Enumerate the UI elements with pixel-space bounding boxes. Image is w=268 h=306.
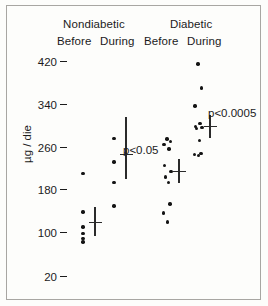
data-point — [197, 154, 200, 157]
y-tick-20-label: 20 — [44, 271, 57, 283]
mean-marker — [173, 171, 186, 172]
y-tick-180-mark — [60, 189, 67, 190]
data-point — [198, 122, 201, 125]
data-point — [200, 86, 203, 89]
y-tick-340-label: 340 — [38, 99, 57, 111]
annotation-p-0-0005: p<0.0005 — [208, 107, 256, 119]
data-point — [81, 232, 84, 235]
y-tick-20: 20 — [7, 271, 67, 283]
data-point — [81, 225, 84, 228]
column-label-nondiabetic-during: During — [100, 35, 134, 47]
data-point — [166, 220, 169, 223]
data-point — [167, 147, 170, 150]
y-tick-340-mark — [60, 104, 67, 105]
data-point — [81, 210, 84, 213]
y-tick-340: 340 — [7, 99, 67, 111]
data-point — [162, 211, 165, 214]
column-label-diabetic-during: During — [187, 35, 221, 47]
y-tick-100-mark — [60, 232, 67, 233]
y-tick-260: 260 — [7, 142, 67, 154]
data-point — [168, 202, 171, 205]
data-point — [196, 62, 199, 65]
data-point — [169, 140, 172, 143]
y-tick-420-label: 420 — [38, 56, 57, 68]
annotation-p-0-05: p<0.05 — [123, 144, 159, 156]
group-title-nondiabetic: Nondiabetic — [63, 18, 125, 30]
y-tick-180: 180 — [7, 184, 67, 196]
y-tick-20-mark — [60, 276, 67, 277]
mean-marker — [204, 126, 217, 127]
y-tick-420: 420 — [7, 56, 67, 68]
data-point — [81, 172, 84, 175]
data-point — [112, 160, 115, 163]
data-point — [198, 139, 201, 142]
column-label-nondiabetic-before: Before — [57, 35, 91, 47]
data-point — [112, 181, 115, 184]
mean-marker — [89, 222, 102, 223]
data-point — [112, 137, 115, 140]
y-tick-100-label: 100 — [38, 227, 57, 239]
data-point — [167, 181, 170, 184]
data-point — [193, 104, 196, 107]
data-point — [112, 204, 115, 207]
y-tick-260-mark — [60, 147, 67, 148]
data-point — [163, 164, 166, 167]
y-tick-420-mark — [60, 61, 67, 62]
y-tick-180-label: 180 — [38, 184, 57, 196]
data-point — [164, 175, 167, 178]
group-title-diabetic: Diabetic — [170, 18, 212, 30]
plot-area: Nondiabetic Diabetic Before During Befor… — [7, 6, 260, 299]
data-point — [193, 153, 196, 156]
data-point — [81, 240, 84, 243]
figure-border: Nondiabetic Diabetic Before During Befor… — [6, 5, 261, 300]
data-point — [195, 127, 198, 130]
data-point — [162, 143, 165, 146]
column-label-diabetic-before: Before — [144, 35, 178, 47]
y-tick-100: 100 — [7, 227, 67, 239]
figure-panel: Nondiabetic Diabetic Before During Befor… — [0, 0, 268, 306]
y-tick-260-label: 260 — [38, 142, 57, 154]
